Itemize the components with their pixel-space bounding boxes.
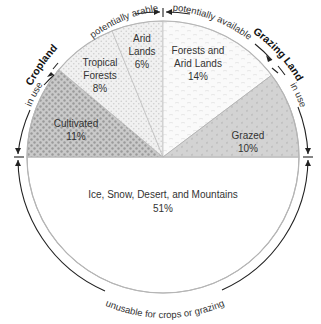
slice-ice-snow-desert-mountains xyxy=(27,157,299,293)
svg-text:Ice, Snow, Desert, and Mountai: Ice, Snow, Desert, and Mountains xyxy=(88,189,238,200)
svg-text:Cultivated: Cultivated xyxy=(54,118,98,129)
svg-text:11%: 11% xyxy=(66,131,85,142)
svg-text:14%: 14% xyxy=(188,71,208,82)
svg-text:Arid Lands: Arid Lands xyxy=(174,58,222,69)
arc-label-unusable: unusable for crops or grazing xyxy=(104,297,226,320)
svg-text:51%: 51% xyxy=(153,203,173,214)
svg-text:10%: 10% xyxy=(238,143,258,154)
arc-label-grazing-in-use: in use xyxy=(288,80,309,108)
svg-text:Tropical: Tropical xyxy=(82,57,117,68)
svg-text:8%: 8% xyxy=(93,83,108,94)
land-use-pie-chart: potentially arable potentially available… xyxy=(0,0,321,324)
svg-text:Lands: Lands xyxy=(128,46,155,57)
svg-text:Forests and: Forests and xyxy=(172,45,225,56)
svg-text:Arid: Arid xyxy=(133,33,151,44)
svg-text:Forests: Forests xyxy=(83,70,116,81)
svg-text:Grazed: Grazed xyxy=(232,130,265,141)
svg-text:6%: 6% xyxy=(135,59,150,70)
